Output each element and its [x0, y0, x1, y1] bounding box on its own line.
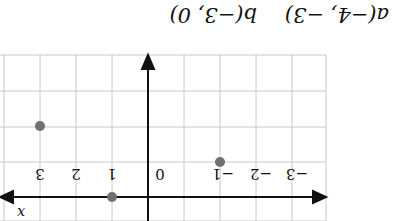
grid-svg: −3 −2 −1 0 1 2 3 x a(−4, −3) b(−3, 0) [0, 0, 407, 221]
y-axis-arrow-icon [142, 55, 154, 69]
caption: a(−4, −3) b(−3, 0) [170, 3, 390, 27]
x-axis-label: x [17, 205, 25, 221]
point-left-low [215, 157, 225, 167]
tick-label: 0 [155, 165, 165, 183]
tick-label: 3 [35, 165, 45, 183]
point-a-caption: a(−4, −3) [285, 3, 389, 27]
tick-labels: −3 −2 −1 0 1 2 3 x [17, 165, 308, 221]
tick-label: 2 [71, 165, 81, 183]
tick-label: −1 [212, 165, 234, 183]
x-axis-arrow-right-icon [0, 191, 13, 203]
point-b-caption: b(−3, 0) [170, 3, 258, 27]
point-near-x-axis [107, 192, 117, 202]
x-axis-arrow-left-icon [313, 191, 326, 203]
tick-label: −2 [250, 165, 272, 183]
tick-label: −3 [286, 165, 308, 183]
coordinate-diagram: −3 −2 −1 0 1 2 3 x a(−4, −3) b(−3, 0) [0, 0, 407, 221]
axes [0, 55, 326, 221]
point-right [35, 121, 45, 131]
tick-label: 1 [107, 165, 117, 183]
